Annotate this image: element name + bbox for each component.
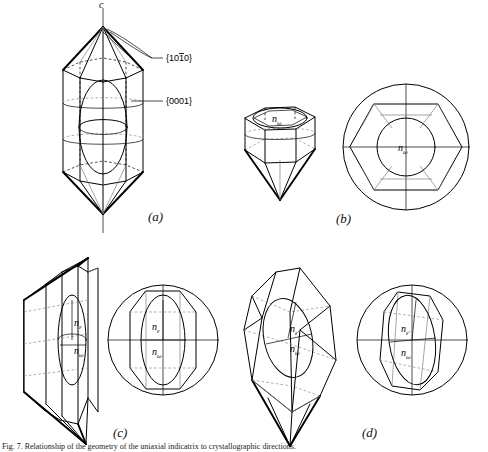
- panel-letter-d: (d): [362, 425, 377, 440]
- miller-index-basal-label: {0001}: [166, 96, 192, 106]
- c-axis-label-a: c: [99, 0, 104, 10]
- figure-container: .s {fill:none;stroke:#000;stroke-width:1…: [0, 0, 488, 452]
- panel-letter-b: (b): [336, 211, 351, 226]
- crystal-indicatrix-figure: .s {fill:none;stroke:#000;stroke-width:1…: [0, 0, 488, 452]
- miller-index-prism-label: {1010}: [166, 53, 192, 63]
- panel-letter-c: (c): [113, 425, 127, 440]
- panel-letter-a: (a): [148, 209, 163, 224]
- figure-caption: Fig. 7. Relationship of the geometry of …: [0, 442, 488, 452]
